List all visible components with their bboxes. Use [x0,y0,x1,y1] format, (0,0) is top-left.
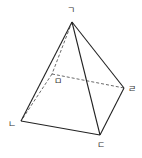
hidden-edges [21,22,124,121]
solid-edge [21,22,72,121]
dashed-edge [52,22,72,74]
pyramid-diagram: ㄱㄴㄷㄹㅁ [0,0,142,158]
vertex-label-front-left: ㄴ [8,119,16,129]
solid-edge [100,88,124,135]
solid-edge [21,121,100,135]
vertex-label-back-left: ㅁ [54,76,62,86]
visible-edges [21,22,124,135]
dashed-edge [21,74,52,121]
vertex-label-front-right: ㄷ [97,140,105,150]
vertex-label-apex: ㄱ [67,5,75,15]
vertex-label-back-right: ㄹ [128,84,136,94]
